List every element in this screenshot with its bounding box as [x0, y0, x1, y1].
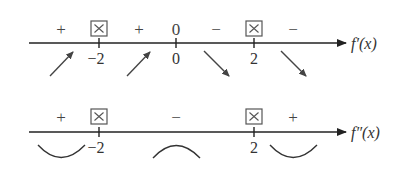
decreasing-arrow-icon [204, 51, 229, 76]
sign-minus: − [288, 20, 298, 39]
second-derivative-label: f″(x) [351, 124, 380, 142]
tick-label-0: 0 [172, 50, 180, 67]
increasing-arrow-icon [50, 52, 73, 76]
first-derivative-chart: + + 0 − − −2 0 2 f′(x) [29, 20, 377, 76]
undefined-box-icon [246, 109, 262, 124]
sign-minus: − [211, 20, 221, 39]
undefined-box-icon [91, 109, 107, 124]
second-derivative-chart: + − + −2 2 f″(x) [29, 108, 380, 158]
tick-label-2: 2 [250, 50, 258, 67]
sign-plus: + [56, 20, 66, 39]
tick-label-neg2: −2 [87, 139, 104, 156]
concave-up-icon [270, 145, 317, 158]
sign-chart-diagram: + + 0 − − −2 0 2 f′(x) + [0, 0, 402, 173]
sign-plus: + [56, 108, 66, 127]
sign-plus: + [134, 20, 144, 39]
increasing-arrow-icon [127, 52, 150, 76]
sign-minus: − [171, 108, 181, 127]
decreasing-arrow-icon [281, 51, 306, 76]
undefined-box-icon [246, 21, 262, 36]
concave-down-icon [153, 146, 200, 159]
first-derivative-label: f′(x) [351, 35, 377, 53]
tick-label-neg2: −2 [87, 50, 104, 67]
concave-up-icon [38, 145, 85, 158]
tick-label-2: 2 [250, 139, 258, 156]
undefined-box-icon [91, 21, 107, 36]
sign-zero: 0 [172, 20, 181, 39]
sign-plus: + [288, 108, 298, 127]
